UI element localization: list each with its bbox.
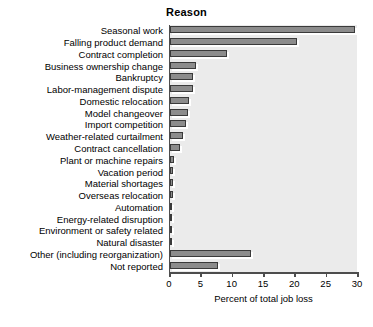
bar — [170, 156, 174, 163]
bar — [170, 73, 193, 80]
x-axis-label: Percent of total job loss — [169, 293, 358, 304]
x-tick — [200, 272, 202, 277]
x-tick-label: 15 — [258, 278, 269, 289]
bar — [170, 262, 218, 269]
bar — [170, 120, 186, 127]
category-label: Business ownership change — [45, 61, 163, 72]
x-tick — [326, 272, 328, 277]
bar — [170, 144, 180, 151]
x-tick — [294, 272, 296, 277]
bar — [170, 38, 297, 45]
bar — [170, 226, 172, 233]
category-label: Falling product demand — [64, 37, 163, 48]
category-label: Not reported — [110, 261, 163, 272]
plot-area — [169, 25, 357, 272]
category-label: Energy-related disruption — [57, 214, 163, 225]
bar — [170, 50, 227, 57]
x-tick-label: 30 — [352, 278, 363, 289]
bar — [170, 26, 355, 33]
x-tick — [263, 272, 265, 277]
bar — [170, 214, 172, 221]
bar — [170, 132, 183, 139]
category-label: Domestic relocation — [80, 96, 163, 107]
category-label: Contract cancellation — [74, 143, 163, 154]
category-label: Natural disaster — [96, 237, 163, 248]
category-label: Labor-management dispute — [47, 84, 163, 95]
category-label: Model changeover — [85, 108, 163, 119]
x-tick — [232, 272, 234, 277]
bar-chart-figure: Reason Seasonal workFalling product dema… — [0, 0, 373, 327]
x-tick-label: 10 — [226, 278, 237, 289]
x-tick — [169, 272, 171, 277]
x-tick-label: 20 — [289, 278, 300, 289]
category-axis-labels: Seasonal workFalling product demandContr… — [0, 25, 167, 272]
bar — [170, 191, 173, 198]
category-label: Material shortages — [85, 178, 163, 189]
bar — [170, 109, 188, 116]
x-tick-label: 25 — [320, 278, 331, 289]
category-label: Overseas relocation — [79, 190, 163, 201]
chart-title: Reason — [0, 6, 373, 18]
category-label: Other (including reorganization) — [30, 249, 163, 260]
x-tick — [357, 272, 359, 277]
bar — [170, 97, 189, 104]
x-tick-label: 5 — [198, 278, 203, 289]
x-tick-label: 0 — [166, 278, 171, 289]
category-label: Automation — [115, 202, 163, 213]
category-label: Environment or safety related — [39, 225, 163, 236]
bar — [170, 250, 251, 257]
bar — [170, 85, 193, 92]
bar — [170, 238, 172, 245]
bar-series — [170, 25, 358, 272]
bar — [170, 179, 173, 186]
bar — [170, 203, 172, 210]
category-label: Plant or machine repairs — [60, 155, 163, 166]
bar — [170, 62, 196, 69]
category-label: Vacation period — [98, 167, 163, 178]
category-label: Bankruptcy — [115, 72, 163, 83]
category-label: Weather-related curtailment — [46, 131, 163, 142]
category-label: Contract completion — [79, 49, 163, 60]
bar — [170, 167, 173, 174]
category-label: Seasonal work — [101, 25, 163, 36]
category-label: Import competition — [85, 119, 163, 130]
